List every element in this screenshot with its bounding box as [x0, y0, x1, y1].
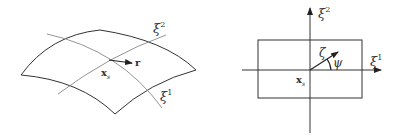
xi1-label-left: ξ1 [160, 88, 172, 104]
zeta-label: ζ [319, 46, 327, 60]
surface-patch-panel: ξ2 ξ1 xs r [21, 20, 196, 114]
psi-label: ψ [333, 56, 343, 70]
xi2-label-right: ξ2 [318, 5, 330, 21]
xs-label-left: xs [101, 67, 110, 80]
psi-angle-arc [327, 59, 331, 70]
xi1-label-right: ξ1 [370, 53, 382, 69]
diagram-canvas: ξ2 ξ1 xs r ξ2 ξ1 xs ζ ψ [0, 0, 398, 139]
xs-label-right: xs [296, 74, 305, 87]
r-label: r [135, 57, 141, 68]
surface-patch-outline [21, 30, 196, 114]
r-vector-arrow [109, 60, 132, 63]
parameter-domain-panel: ξ2 ξ1 xs ζ ψ [242, 5, 382, 133]
xi2-label-left: ξ2 [153, 20, 165, 36]
xi2-coordinate-curve [58, 35, 166, 94]
